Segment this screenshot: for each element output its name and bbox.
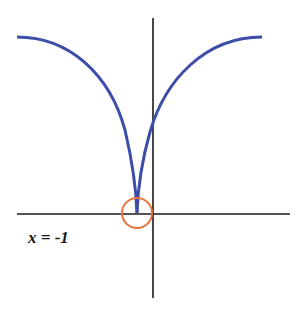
x-value-label: x = -1 (28, 228, 69, 248)
cusp-graph (0, 0, 301, 314)
left-curve-branch (17, 37, 137, 213)
right-curve-branch (137, 37, 262, 213)
